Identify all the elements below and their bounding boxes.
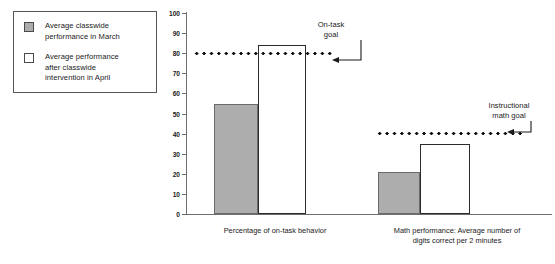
category-label-on-task: Percentage of on-task behavior [200,226,350,236]
y-tick-label-50: 50 [173,110,180,117]
legend-label-march: Average classwide performance in March [45,21,120,42]
bar-april-math [420,144,470,214]
goal-line-on-task [193,52,333,55]
legend-item-april: Average performance after classwide inte… [24,52,119,84]
annotation-on-task-goal: On-task goal [295,20,367,40]
y-tick-label-30: 30 [173,150,180,157]
y-tick-label-100: 100 [169,10,180,17]
bar-march-math [378,172,420,214]
bar-april-on-task [258,45,306,214]
arrow-left-icon [330,40,364,68]
legend-swatch-march [24,22,34,32]
y-tick-label-90: 90 [173,30,180,37]
legend-label-april: Average performance after classwide inte… [45,52,119,84]
category-label-math: Math performance: Average number of digi… [362,226,552,247]
y-tick-label-80: 80 [173,50,180,57]
legend-swatch-april [24,53,34,63]
y-tick-label-70: 70 [173,70,180,77]
legend-item-march: Average classwide performance in March [24,21,120,42]
chart-figure: Average classwide performance in March A… [0,0,555,264]
y-axis-line [186,12,187,215]
x-axis-line [186,214,552,215]
annotation-leader-on-task [330,40,364,68]
annotation-leader-math [505,121,539,149]
bar-march-on-task [214,104,258,215]
annotation-math-goal: Instructional math goal [470,101,548,121]
goal-line-math [376,132,524,135]
y-tick-label-60: 60 [173,90,180,97]
y-tick-label-10: 10 [173,190,180,197]
arrow-left-icon-2 [505,121,539,149]
legend: Average classwide performance in March A… [13,11,157,93]
y-tick-label-20: 20 [173,170,180,177]
y-tick-label-0: 0 [176,211,180,218]
y-tick-label-40: 40 [173,130,180,137]
